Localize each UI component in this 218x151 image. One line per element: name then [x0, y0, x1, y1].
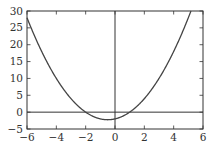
y-tick-label: 0	[16, 106, 23, 118]
y-tick-label: 15	[10, 55, 23, 67]
y-tick-label: 25	[10, 21, 23, 33]
reference-lines	[27, 11, 203, 129]
y-tick-label: 10	[10, 72, 23, 84]
x-tick-label: 4	[170, 131, 177, 143]
x-tick-label: 2	[141, 131, 148, 143]
y-axis-tick-labels: −5051015202530	[8, 5, 23, 135]
parabola-curve	[27, 11, 191, 120]
y-tick-label: 30	[10, 5, 23, 17]
x-tick-label: −2	[78, 131, 93, 143]
parabola-chart: −6−4−20246 −5051015202530	[0, 0, 218, 151]
x-axis-tick-labels: −6−4−20246	[19, 131, 206, 143]
y-tick-label: 20	[10, 38, 23, 50]
x-tick-label: 6	[200, 131, 207, 143]
y-tick-label: 5	[16, 89, 23, 101]
y-tick-label: −5	[8, 123, 23, 135]
x-tick-label: 0	[112, 131, 119, 143]
x-tick-label: −4	[49, 131, 65, 143]
